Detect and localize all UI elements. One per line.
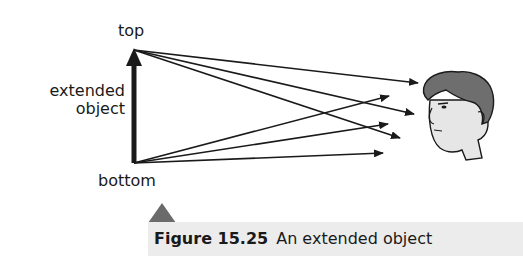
figure-caption: Figure 15.25An extended object [148, 222, 523, 256]
rays-from-top [134, 50, 418, 138]
caption-number: Figure 15.25 [154, 229, 268, 248]
ray-diagram [0, 0, 523, 257]
object-arrow [126, 48, 142, 163]
triangle-marker-icon [148, 203, 176, 223]
caption-text: An extended object [276, 229, 432, 248]
rays-from-bottom [134, 96, 389, 163]
observer-face-icon [424, 72, 494, 161]
